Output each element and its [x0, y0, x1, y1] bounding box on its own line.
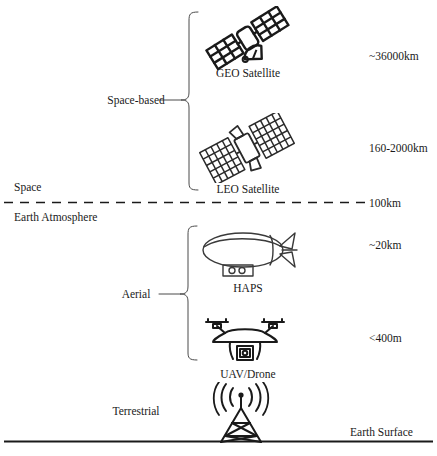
node-label-uav-drone: UAV/Drone [220, 368, 275, 381]
cell-tower-icon [195, 382, 287, 446]
altitude-label-geo: ~36000km [369, 50, 419, 63]
altitude-label-haps: ~20km [369, 239, 401, 252]
boundary-label-earth-surface: Earth Surface [350, 426, 413, 439]
drone-icon [203, 315, 287, 367]
boundary-label-earth-atmosphere: Earth Atmosphere [14, 211, 97, 224]
geo-satellite-icon [201, 6, 293, 70]
leo-satellite-icon [199, 113, 295, 183]
node-label-geo-satellite: GEO Satellite [216, 67, 280, 80]
group-label-terrestrial: Terrestrial [112, 405, 159, 418]
aerial-brace [159, 226, 197, 360]
altitude-label-leo: 160-2000km [369, 142, 428, 155]
space-based-brace [160, 12, 198, 190]
group-label-aerial: Aerial [122, 288, 151, 301]
altitude-label-atmosphere: 100km [369, 197, 401, 210]
group-label-space-based: Space-based [107, 94, 164, 107]
boundary-label-space: Space [14, 181, 41, 194]
node-label-leo-satellite: LEO Satellite [217, 183, 280, 196]
ntn-layers-diagram: Space-based Aerial Terrestrial GEO Satel… [0, 0, 437, 456]
node-label-haps: HAPS [233, 282, 262, 295]
airship-icon [196, 227, 300, 283]
altitude-label-drone: <400m [369, 332, 402, 345]
